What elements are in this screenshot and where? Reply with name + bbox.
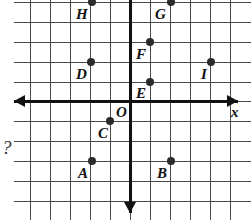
x-axis-left-arrow-icon — [14, 95, 25, 107]
x-axis-line — [14, 100, 238, 103]
axes-layer: x O — [0, 0, 251, 220]
y-axis-down-arrow-icon — [124, 202, 136, 213]
y-axis-line — [129, 0, 132, 213]
x-axis-label: x — [231, 105, 239, 120]
coordinate-plane-figure: x O ABCDEFGHI ? — [0, 0, 251, 220]
origin-label: O — [116, 105, 127, 120]
